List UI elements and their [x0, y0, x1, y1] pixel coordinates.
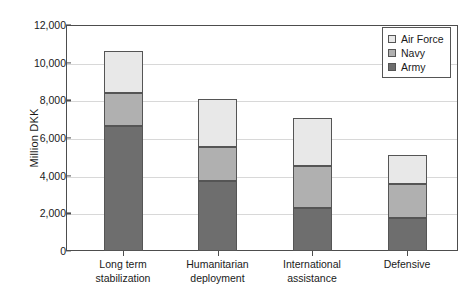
- gridline: [67, 177, 457, 178]
- y-tick-label: 10,000: [18, 57, 66, 69]
- legend-label: Army: [401, 61, 426, 73]
- legend-label: Navy: [401, 47, 425, 59]
- y-tick-mark: [66, 137, 71, 138]
- legend-label: Air Force: [401, 33, 444, 45]
- y-tick-label: 12,000: [18, 19, 66, 31]
- legend-swatch-icon: [388, 49, 396, 57]
- x-axis-label: Defensive: [347, 258, 467, 272]
- x-label-line: Defensive: [347, 258, 467, 272]
- gridline: [67, 139, 457, 140]
- y-tick-mark: [66, 213, 71, 214]
- y-tick-label: 8,000: [18, 94, 66, 106]
- y-tick-mark: [66, 24, 71, 25]
- y-tick-label: 6,000: [18, 132, 66, 144]
- y-tick-label: 2,000: [18, 207, 66, 219]
- x-label-line: assistance: [252, 272, 372, 286]
- stacked-bar-chart: Million DKK 12,00010,0008,0006,0004,0002…: [0, 0, 474, 297]
- y-tick-label: 4,000: [18, 170, 66, 182]
- y-tick-mark: [66, 62, 71, 63]
- legend-swatch-icon: [388, 35, 396, 43]
- y-tick-mark: [66, 250, 71, 251]
- y-tick-label: 0: [18, 245, 66, 257]
- y-tick-mark: [66, 175, 71, 176]
- legend-item[interactable]: Navy: [388, 46, 444, 59]
- legend-item[interactable]: Army: [388, 60, 444, 73]
- legend-item[interactable]: Air Force: [388, 32, 444, 45]
- x-tick-mark: [123, 251, 124, 256]
- legend-swatch-icon: [388, 63, 396, 71]
- y-tick-mark: [66, 100, 71, 101]
- chart-legend: Air ForceNavyArmy: [382, 27, 451, 78]
- gridline: [67, 214, 457, 215]
- x-tick-mark: [218, 251, 219, 256]
- gridline: [67, 101, 457, 102]
- y-axis-ticks: 12,00010,0008,0006,0004,0002,0000: [10, 25, 66, 251]
- x-tick-mark: [312, 251, 313, 256]
- x-tick-mark: [407, 251, 408, 256]
